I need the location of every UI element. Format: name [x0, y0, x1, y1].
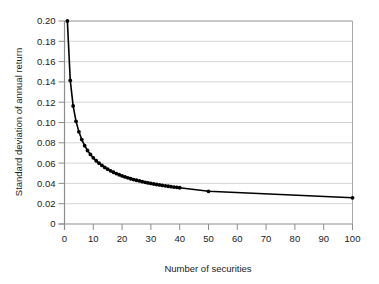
chart-figure: 0102030405060708090100 00.020.040.060.08…	[0, 0, 379, 284]
data-point	[86, 149, 90, 153]
x-tick-label: 0	[62, 233, 67, 244]
x-tick-label: 90	[318, 233, 329, 244]
data-point	[74, 119, 78, 123]
y-tick-label: 0.02	[37, 198, 56, 209]
plot-frame	[59, 21, 353, 230]
x-tick-label: 60	[232, 233, 243, 244]
x-tick-label: 30	[146, 233, 157, 244]
x-tick-label: 80	[290, 233, 301, 244]
data-point	[77, 130, 81, 134]
y-tick-label: 0.14	[37, 76, 56, 87]
data-point	[89, 153, 93, 157]
y-tick-label: 0	[50, 218, 55, 229]
x-tick-label: 10	[88, 233, 99, 244]
x-tick-label: 50	[203, 233, 214, 244]
y-axis-title: Standard deviation of annual return	[13, 48, 24, 196]
x-axis-ticks	[65, 224, 353, 230]
gridlines	[65, 21, 353, 204]
y-tick-label: 0.04	[37, 178, 56, 189]
x-axis-title: Number of securities	[164, 263, 251, 274]
diversification-line-chart: 0102030405060708090100 00.020.040.060.08…	[0, 0, 379, 284]
data-point	[91, 156, 95, 160]
data-point	[80, 138, 84, 142]
y-tick-label: 0.16	[37, 56, 56, 67]
x-axis-tick-labels: 0102030405060708090100	[62, 233, 361, 244]
y-tick-label: 0.06	[37, 158, 56, 169]
data-point	[65, 19, 69, 23]
data-point	[94, 159, 98, 163]
x-tick-label: 100	[345, 233, 361, 244]
data-point	[71, 104, 75, 108]
y-tick-label: 0.18	[37, 36, 56, 47]
y-tick-label: 0.10	[37, 117, 56, 128]
data-point	[207, 189, 211, 193]
y-axis-tick-labels: 00.020.040.060.080.100.120.140.160.180.2…	[37, 15, 56, 229]
x-tick-label: 70	[261, 233, 272, 244]
data-series-markers	[65, 19, 354, 200]
data-point	[83, 144, 87, 148]
data-point	[178, 186, 182, 190]
y-axis-ticks	[59, 21, 65, 224]
data-point	[351, 196, 355, 200]
x-tick-label: 40	[174, 233, 185, 244]
x-tick-label: 20	[117, 233, 128, 244]
y-tick-label: 0.12	[37, 97, 56, 108]
y-tick-label: 0.20	[37, 15, 56, 26]
y-tick-label: 0.08	[37, 137, 56, 148]
data-point	[68, 78, 72, 82]
